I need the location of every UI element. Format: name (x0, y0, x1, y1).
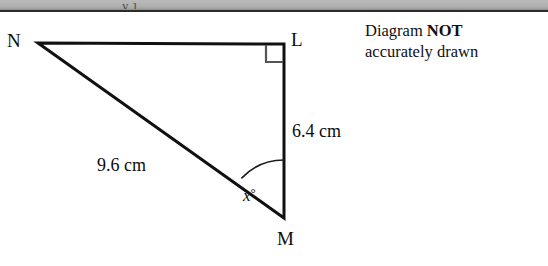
vertex-label-m: M (277, 229, 294, 248)
diagram-note-emphasis: NOT (427, 21, 463, 40)
right-angle-marker-icon (266, 45, 283, 62)
angle-arc-icon (242, 160, 284, 178)
vertex-label-l: L (291, 30, 303, 49)
side-length-label-lm: 6.4 cm (292, 122, 341, 140)
angle-label-x: x° (243, 184, 256, 204)
diagram-note-line-2: accurately drawn (365, 41, 540, 62)
side-length-label-nm: 9.6 cm (97, 156, 146, 174)
diagram-note: Diagram NOT accurately drawn (365, 20, 540, 62)
degree-symbol: ° (251, 185, 256, 200)
diagram-note-prefix: Diagram (365, 21, 427, 40)
vertex-label-n: N (7, 31, 21, 50)
diagram-note-line-1: Diagram NOT (365, 20, 540, 41)
scan-artifact-strip: y 1 (0, 0, 548, 12)
clipped-text-fragment: y 1 (122, 3, 138, 9)
angle-variable: x (243, 186, 251, 205)
